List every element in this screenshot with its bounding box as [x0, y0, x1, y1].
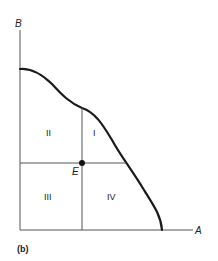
region-ii-label: II: [46, 128, 51, 138]
diagram-canvas: B A E I II III IV (b): [0, 0, 218, 261]
frontier-curve: [20, 69, 162, 230]
point-e-label: E: [72, 166, 79, 177]
region-iv-label: IV: [107, 192, 116, 202]
panel-label: (b): [17, 244, 29, 254]
y-axis-label: B: [15, 18, 22, 29]
region-i-label: I: [93, 128, 96, 138]
x-axis-label: A: [194, 225, 202, 236]
region-iii-label: III: [44, 192, 52, 202]
point-e: [79, 160, 85, 166]
